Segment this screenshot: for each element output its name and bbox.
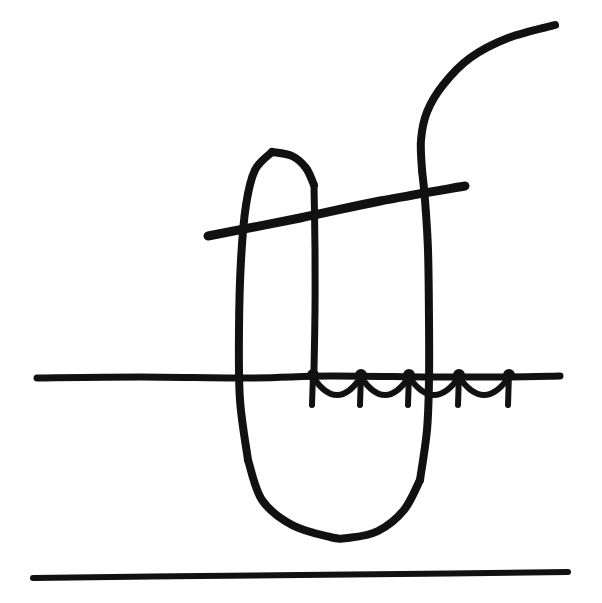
fence-knot (355, 369, 367, 381)
fence-knot (403, 369, 415, 381)
fence-knot (307, 369, 319, 381)
ground-line (37, 376, 560, 378)
inner-vertical (314, 185, 315, 370)
canvas-background (0, 0, 602, 603)
sketch-canvas (0, 0, 602, 603)
fence-knot (453, 369, 465, 381)
fence-knot (503, 369, 515, 381)
sketch-svg (0, 0, 602, 603)
